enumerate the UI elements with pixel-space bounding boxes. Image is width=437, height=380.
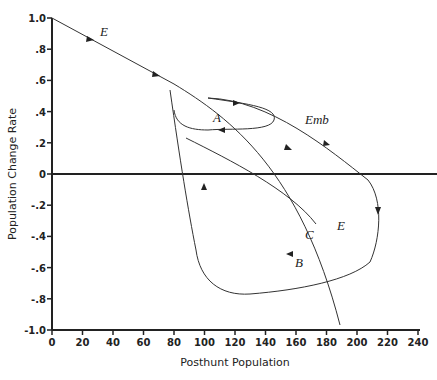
y-tick-label: 1.0 [28, 13, 46, 24]
x-tick-label: 220 [377, 337, 398, 348]
arrow-icon [218, 127, 225, 133]
y-tick-label: -.8 [31, 294, 46, 305]
y-tick-label: .4 [35, 107, 46, 118]
y-tick-label: -.4 [31, 231, 46, 242]
label-c: C [305, 227, 314, 242]
arrow-icon [233, 100, 240, 106]
x-axis-label: Posthunt Population [180, 356, 290, 369]
arrow-icon [284, 144, 292, 150]
x-tick-label: 60 [137, 337, 151, 348]
label-e-top: E [99, 24, 108, 39]
arrow-icon [375, 207, 381, 215]
x-tick-label: 160 [286, 337, 307, 348]
curve-b [170, 90, 250, 294]
y-tick-label: .6 [35, 75, 46, 86]
x-tick-label: 200 [347, 337, 368, 348]
arrow-icon [201, 183, 207, 190]
y-ticks: 1.0.8.6.4.20-.2-.4-.6-.8-1.0 [24, 13, 52, 336]
y-tick-label: -.6 [31, 263, 46, 274]
arrow-icon [323, 140, 330, 146]
x-tick-label: 20 [76, 337, 90, 348]
x-ticks: 020406080100120140160180200220240 [49, 330, 429, 348]
curve-c [186, 138, 316, 224]
y-axis-label: Population Change Rate [6, 108, 19, 240]
x-tick-label: 180 [316, 337, 337, 348]
label-emb: Emb [304, 112, 329, 127]
arrow-icon [152, 71, 160, 77]
y-tick-label: -1.0 [24, 325, 46, 336]
x-tick-label: 100 [194, 337, 215, 348]
y-tick-label: .2 [35, 138, 46, 149]
arrow-icon [86, 36, 94, 42]
label-b: B [295, 255, 303, 270]
x-tick-label: 240 [408, 337, 429, 348]
x-tick-label: 120 [225, 337, 246, 348]
label-a: A [212, 110, 221, 125]
y-tick-label: -.2 [31, 200, 46, 211]
x-tick-label: 140 [255, 337, 276, 348]
y-tick-label: 0 [39, 169, 46, 180]
y-tick-label: .8 [35, 44, 46, 55]
phase-plot: 1.0.8.6.4.20-.2-.4-.6-.8-1.0 02040608010… [0, 0, 437, 380]
x-tick-label: 0 [49, 337, 56, 348]
arrow-icon [286, 251, 293, 257]
x-tick-label: 40 [106, 337, 120, 348]
x-tick-label: 80 [167, 337, 181, 348]
label-e-bottom: E [336, 218, 345, 233]
curve-a [174, 98, 274, 130]
